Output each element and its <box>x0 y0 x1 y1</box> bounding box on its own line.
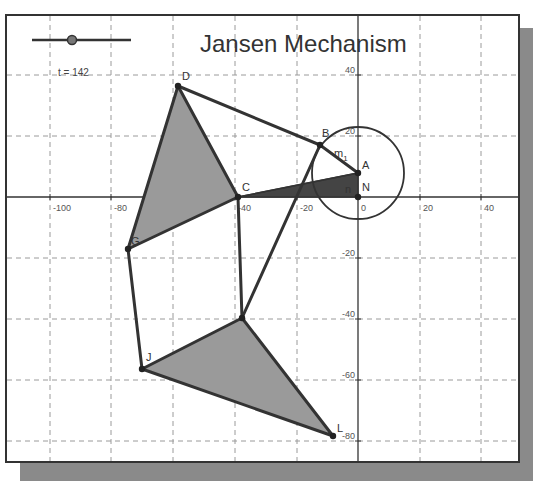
mechanism-drawing: -100-80-60-40-20020404020-20-40-60-80 AN… <box>0 0 533 491</box>
triangle-dcg[interactable] <box>128 86 238 249</box>
geogebra-canvas: -100-80-60-40-20020404020-20-40-60-80 AN… <box>0 0 533 491</box>
page-title: Jansen Mechanism <box>200 30 407 57</box>
t-slider-knob[interactable] <box>68 36 77 45</box>
point-label-b: B <box>322 127 329 139</box>
point-h[interactable] <box>239 315 245 321</box>
point-b[interactable] <box>317 142 323 148</box>
link-ch[interactable] <box>238 197 242 318</box>
link-bh[interactable] <box>242 145 320 318</box>
point-a[interactable] <box>355 170 361 176</box>
point-n[interactable] <box>355 194 361 200</box>
x-tick-label: -100 <box>53 203 71 213</box>
y-tick-label: -80 <box>342 431 355 441</box>
t-slider-label: t = 142 <box>58 67 89 78</box>
point-l[interactable] <box>330 433 336 439</box>
y-tick-label: -20 <box>342 248 355 258</box>
x-tick-label: 0 <box>361 203 366 213</box>
point-label-l: L <box>337 422 343 434</box>
link-gj[interactable] <box>128 249 142 369</box>
x-tick-label: -20 <box>300 203 313 213</box>
point-label-a: A <box>362 159 370 171</box>
x-tick-label: 40 <box>484 203 494 213</box>
small-angle-label: n <box>345 183 351 195</box>
point-label-g: G <box>131 235 140 247</box>
y-tick-label: -60 <box>342 370 355 380</box>
point-label-c: C <box>242 181 250 193</box>
point-j[interactable] <box>139 366 145 372</box>
triangle-hjl[interactable] <box>142 318 333 436</box>
point-label-d: D <box>182 70 190 82</box>
y-tick-label: 40 <box>345 65 355 75</box>
point-label-n: N <box>362 181 370 193</box>
point-d[interactable] <box>175 83 181 89</box>
point-c[interactable] <box>235 194 241 200</box>
point-label-j: J <box>146 351 152 363</box>
y-tick-label: -40 <box>342 309 355 319</box>
x-tick-label: -80 <box>114 203 127 213</box>
x-tick-label: 20 <box>423 203 433 213</box>
